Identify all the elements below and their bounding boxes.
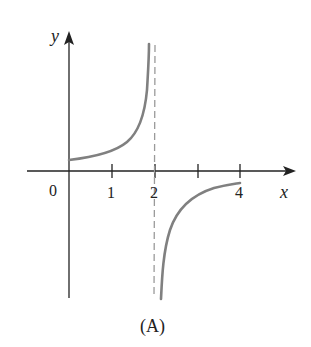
tick-label-2: 2 bbox=[150, 184, 158, 201]
vertical-asymptote bbox=[154, 45, 155, 298]
y-axis-label: y bbox=[49, 26, 59, 46]
figure-caption: (A) bbox=[140, 316, 165, 337]
curve-left-branch bbox=[69, 44, 149, 160]
x-axis-label: x bbox=[279, 182, 288, 202]
tick-label-1: 1 bbox=[107, 184, 115, 201]
function-graph: y x 0 1 2 4 (A) bbox=[0, 0, 311, 347]
curve-right-branch bbox=[161, 183, 240, 299]
origin-label: 0 bbox=[49, 182, 57, 199]
tick-label-4: 4 bbox=[235, 184, 243, 201]
